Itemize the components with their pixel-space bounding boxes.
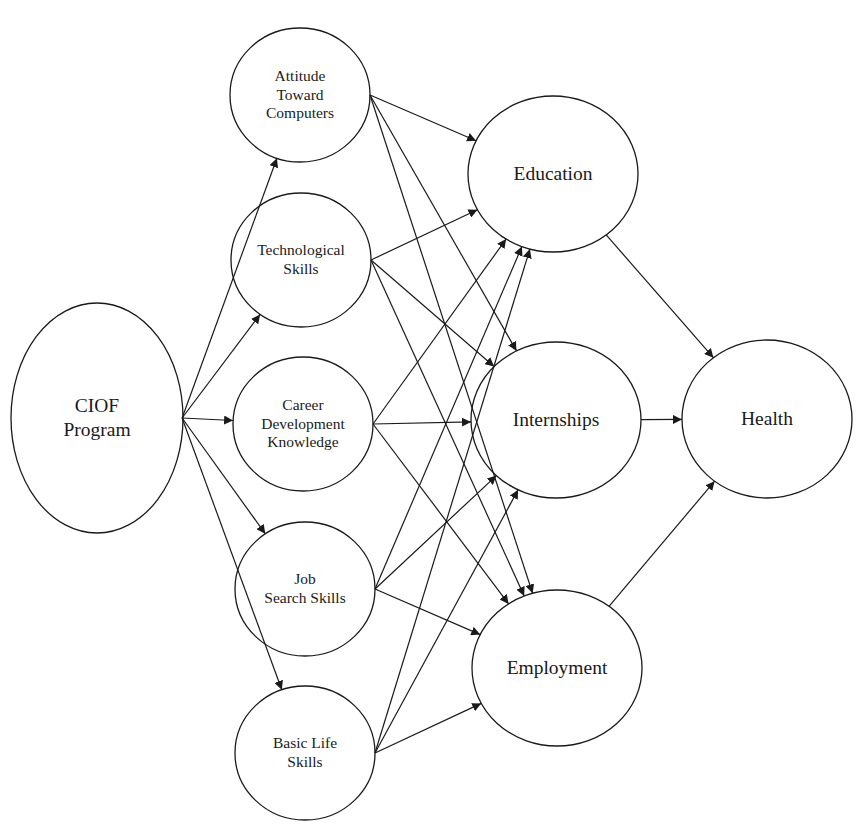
node-tech bbox=[231, 193, 371, 327]
edge-ciof-to-career bbox=[182, 418, 233, 421]
edge-basic-to-employment bbox=[375, 703, 481, 753]
edge-employment-to-health bbox=[609, 481, 715, 606]
node-education bbox=[468, 96, 638, 252]
edge-ciof-to-job bbox=[182, 418, 265, 534]
node-group bbox=[11, 28, 852, 820]
node-basic bbox=[235, 686, 375, 820]
edge-career-to-employment bbox=[373, 424, 509, 604]
edge-ciof-to-basic bbox=[182, 418, 282, 690]
edge-ciof-to-tech bbox=[182, 314, 260, 418]
edges-layer bbox=[0, 0, 868, 833]
edge-job-to-education bbox=[375, 247, 522, 589]
node-career bbox=[233, 357, 373, 491]
edge-attitude-to-internships bbox=[370, 95, 517, 351]
node-attitude bbox=[230, 28, 370, 162]
edge-job-to-employment bbox=[375, 589, 480, 635]
edge-job-to-internships bbox=[375, 476, 496, 589]
edge-career-to-internships bbox=[373, 422, 471, 424]
edge-attitude-to-education bbox=[370, 95, 476, 141]
edge-education-to-health bbox=[606, 235, 713, 358]
node-job bbox=[235, 522, 375, 656]
path-diagram: CIOF Program Attitude Toward Computers T… bbox=[0, 0, 868, 833]
edge-tech-to-internships bbox=[371, 260, 494, 367]
edge-ciof-to-attitude bbox=[182, 158, 277, 418]
edge-basic-to-education bbox=[375, 249, 530, 753]
edge-basic-to-internships bbox=[375, 490, 518, 753]
edge-career-to-education bbox=[373, 239, 506, 424]
node-ciof bbox=[11, 303, 183, 533]
node-health bbox=[682, 340, 852, 498]
node-employment bbox=[472, 590, 642, 746]
edge-tech-to-education bbox=[371, 210, 477, 260]
node-internships bbox=[471, 342, 641, 498]
edge-attitude-to-employment bbox=[370, 95, 533, 593]
